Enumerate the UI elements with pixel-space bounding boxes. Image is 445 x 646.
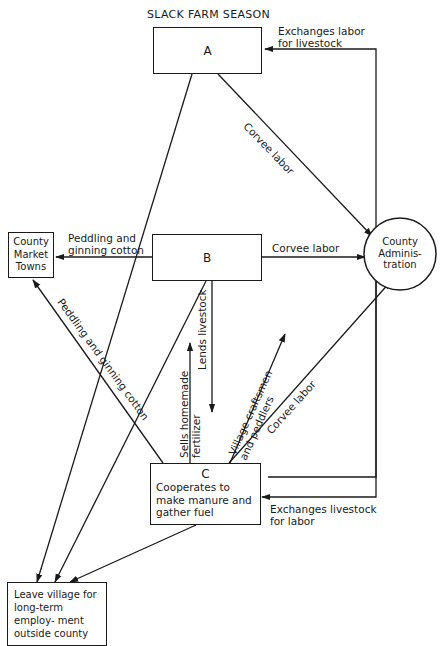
label-line: for labor (270, 515, 377, 527)
label-sells-fertilizer: Sells homemade fertilizer (178, 371, 202, 458)
node-a: A (153, 27, 262, 74)
label-line: Exchanges labor (278, 25, 365, 37)
node-c: C Cooperates to make manure and gather f… (150, 463, 261, 525)
label-b-corvee: Corvee labor (272, 242, 339, 254)
label-exchanges-labor: Exchanges labor for livestock (278, 25, 365, 49)
node-county-administration: County Adminis- tration (368, 236, 432, 271)
node-c-label: C (156, 468, 255, 481)
label-line: for livestock (278, 37, 365, 49)
label-lends-livestock: Lends livestock (196, 289, 208, 370)
node-county-market-towns: County Market Towns (8, 232, 54, 278)
edge-a-to-admin (218, 74, 372, 236)
label-line: Sells homemade (178, 371, 190, 458)
node-admin-label: County Adminis- tration (378, 236, 421, 270)
node-b: B (152, 234, 262, 281)
edge-c-to-market (33, 280, 163, 463)
label-line: fertilizer (190, 371, 202, 458)
node-leave-label: Leave village for long-term employ- ment… (14, 588, 100, 640)
label-b-market: Peddling and ginning cotton (68, 232, 144, 256)
node-a-label: A (154, 44, 261, 58)
node-c-description: Cooperates to make manure and gather fue… (156, 481, 256, 519)
node-leave-village: Leave village for long-term employ- ment… (7, 582, 107, 646)
label-line: Exchanges livestock (270, 503, 377, 515)
label-line: Peddling and (68, 232, 144, 244)
diagram-title: SLACK FARM SEASON (147, 8, 270, 21)
node-b-label: B (153, 251, 261, 265)
label-line: ginning cotton (68, 244, 144, 256)
edge-c-to-leave (70, 525, 196, 582)
node-market-label: County Market Towns (11, 236, 51, 274)
edge-a-to-c (262, 240, 376, 497)
label-exchanges-livestock: Exchanges livestock for labor (270, 503, 377, 527)
